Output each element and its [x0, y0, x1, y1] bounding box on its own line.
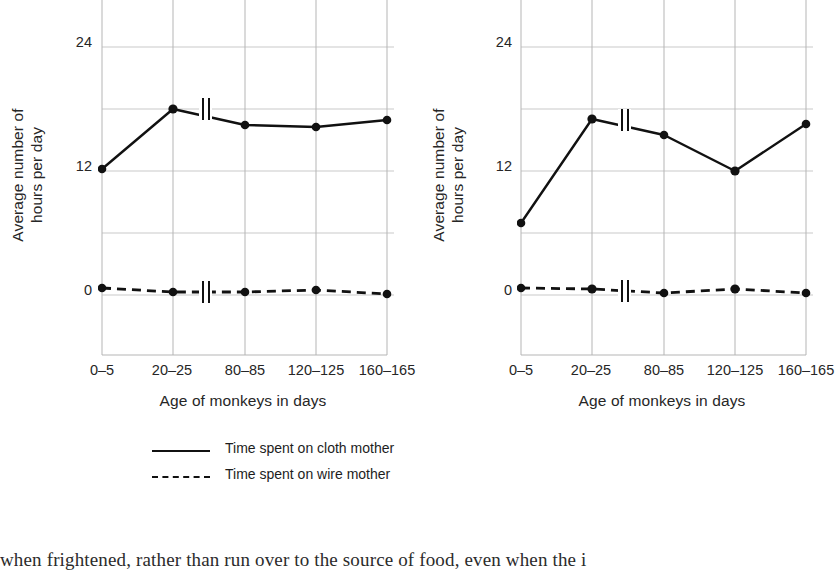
axis-break-right [618, 109, 631, 302]
legend-key-solid-line-icon [152, 450, 210, 452]
y-tick-label-12-right: 12 [474, 158, 512, 174]
x-tick-label-120-125-left: 120–125 [275, 362, 357, 378]
y-axis-label-line-1: Average number of [429, 65, 448, 285]
x-tick-label-160-165-right: 160–165 [765, 362, 839, 378]
y-tick-label-0-right: 0 [474, 282, 512, 298]
y-axis-label-line-1: Average number of [8, 65, 27, 285]
legend-key-dashed-line-icon [152, 476, 210, 478]
x-tick-label-20-25-left: 20–25 [139, 362, 205, 378]
gridlines-vertical-right [521, 0, 806, 355]
y-axis-label-right: Average number of hours per day [429, 65, 467, 285]
y-tick-label-24-left: 24 [54, 34, 92, 50]
x-tick-label-0-5-right: 0–5 [495, 362, 547, 378]
x-tick-label-160-165-left: 160–165 [346, 362, 428, 378]
x-tick-label-20-25-right: 20–25 [558, 362, 624, 378]
x-tick-label-80-85-right: 80–85 [631, 362, 697, 378]
y-tick-label-0-left: 0 [54, 282, 92, 298]
y-tick-label-24-right: 24 [474, 34, 512, 50]
y-tick-label-12-left: 12 [54, 158, 92, 174]
x-axis-label-left: Age of monkeys in days [98, 392, 388, 410]
plot-area-right [517, 0, 817, 356]
y-axis-label-left: Average number of hours per day [8, 65, 46, 285]
gridlines-vertical-left [102, 0, 387, 355]
body-text-line: when frightened, rather than run over to… [0, 549, 839, 571]
legend-label-cloth-mother: Time spent on cloth mother [225, 440, 394, 456]
x-tick-label-80-85-left: 80–85 [212, 362, 278, 378]
axis-break-left [199, 98, 212, 303]
gridlines-horizontal-left [102, 0, 394, 295]
x-tick-label-0-5-left: 0–5 [76, 362, 128, 378]
y-axis-label-line-2: hours per day [27, 65, 46, 285]
legend-label-wire-mother: Time spent on wire mother [225, 466, 390, 482]
plot-area-left [98, 0, 398, 356]
y-axis-label-line-2: hours per day [448, 65, 467, 285]
x-tick-label-120-125-right: 120–125 [694, 362, 776, 378]
x-axis-label-right: Age of monkeys in days [517, 392, 807, 410]
